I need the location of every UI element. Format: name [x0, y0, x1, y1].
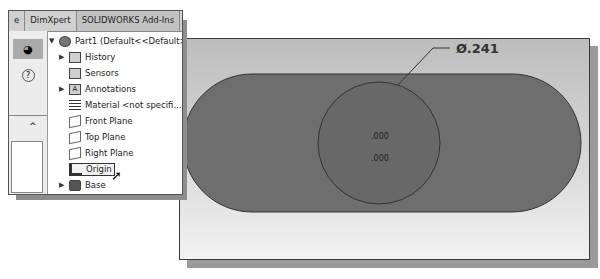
graphics-viewport[interactable]: Ø.241 .000 .000 — [179, 38, 590, 260]
mouse-cursor-icon: ➚ — [111, 168, 122, 183]
tree-item-label: Right Plane — [85, 148, 133, 158]
tree-root[interactable]: ▼ Part1 (Default<<Default>... — [49, 34, 183, 48]
diameter-dimension[interactable]: Ø.241 — [456, 41, 499, 56]
material-icon — [69, 100, 81, 111]
appearance-icon: ◕ — [23, 43, 33, 56]
tree-item-label: History — [85, 52, 115, 62]
tree-item-annotations[interactable]: ▶ A Annotations — [59, 82, 136, 96]
tree-item-label: Origin — [86, 164, 112, 174]
tree-item-material[interactable]: Material <not specifi... — [59, 98, 182, 112]
part-icon — [59, 36, 71, 47]
tree-item-label: Material <not specifi... — [85, 100, 182, 110]
tree-item-top-plane[interactable]: Top Plane — [59, 130, 125, 144]
tab-partial[interactable]: e — [9, 11, 25, 31]
circle-feature[interactable] — [318, 82, 440, 204]
tree-item-label: Top Plane — [85, 132, 125, 142]
plane-icon — [69, 114, 81, 128]
tree-item-label: Base — [85, 180, 106, 190]
coord-y-label: .000 — [371, 154, 389, 163]
coord-x-label: .000 — [371, 132, 389, 141]
collapse-chevron-icon[interactable]: ^ — [29, 121, 37, 131]
tree-item-history[interactable]: ▶ History — [59, 50, 115, 64]
expand-arrow-icon[interactable]: ▶ — [59, 53, 69, 61]
appearance-button[interactable]: ◕ — [13, 39, 43, 59]
origin-highlight[interactable]: Origin — [69, 163, 115, 176]
help-icon: ? — [22, 69, 35, 82]
feature-manager-panel: e DimXpert SOLIDWORKS Add-Ins ◕ ? ^ ▼ Pa… — [8, 10, 183, 195]
history-icon — [69, 52, 81, 63]
tree-item-front-plane[interactable]: Front Plane — [59, 114, 133, 128]
expand-arrow-icon[interactable]: ▶ — [59, 181, 69, 189]
body-icon — [69, 180, 81, 191]
tree-item-base[interactable]: ▶ Base — [59, 178, 106, 192]
side-strip: ◕ ? ^ — [9, 31, 48, 195]
tree-item-label: Sensors — [85, 68, 119, 78]
tree-item-sensors[interactable]: Sensors — [59, 66, 119, 80]
tab-dimxpert[interactable]: DimXpert — [25, 11, 76, 31]
collapse-arrow-icon[interactable]: ▼ — [49, 37, 59, 45]
origin-icon — [70, 164, 82, 175]
tree-root-label: Part1 (Default<<Default>... — [75, 36, 183, 46]
sensors-icon — [69, 68, 81, 79]
plane-icon — [69, 130, 81, 144]
sketch-canvas[interactable]: Ø.241 .000 .000 — [180, 39, 590, 260]
help-button[interactable]: ? — [13, 65, 43, 85]
annotations-icon: A — [69, 84, 81, 95]
expand-arrow-icon[interactable]: ▶ — [59, 85, 69, 93]
side-pane-box — [11, 141, 43, 193]
plane-icon — [69, 146, 81, 160]
tree-item-origin[interactable]: Origin — [59, 162, 115, 176]
tab-solidworks-add-ins[interactable]: SOLIDWORKS Add-Ins — [77, 11, 180, 31]
tree-item-label: Annotations — [85, 84, 136, 94]
command-manager-tabs: e DimXpert SOLIDWORKS Add-Ins — [9, 11, 182, 32]
tree-item-label: Front Plane — [85, 116, 133, 126]
divider — [9, 115, 47, 116]
tree-item-right-plane[interactable]: Right Plane — [59, 146, 133, 160]
